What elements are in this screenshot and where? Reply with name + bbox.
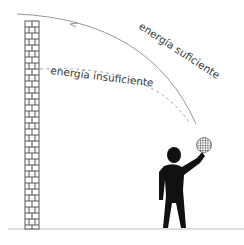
trajectory-sufficient — [17, 14, 196, 124]
arrow-icon — [70, 23, 78, 27]
projectile-energy-diagram: energía suficiente energía insuficiente — [0, 0, 244, 245]
brick-wall — [25, 21, 39, 229]
label-insufficient-energy: energía insuficiente — [50, 64, 154, 89]
label-sufficient-energy: energía suficiente — [137, 20, 223, 81]
ball — [197, 138, 212, 153]
person-silhouette — [159, 147, 205, 228]
